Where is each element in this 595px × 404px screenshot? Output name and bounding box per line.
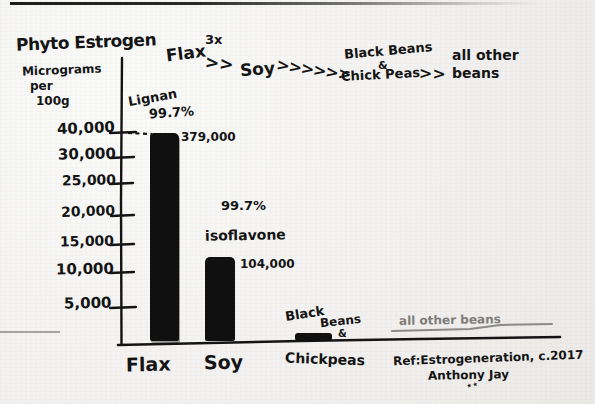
y-axis-unit-line-2: per	[30, 80, 53, 93]
ranking-separator-1: >>	[204, 54, 234, 75]
y-tick-label-15000: 15,000	[60, 234, 114, 250]
y-tick-label-20000: 20,000	[61, 203, 116, 220]
y-tick-label-30000: 30,000	[58, 146, 116, 163]
bar-black-beans-chickpeas	[295, 333, 332, 341]
ranking-item-all-other-line2: beans	[452, 66, 499, 81]
y-tick-label-25000: 25,000	[62, 173, 116, 189]
soy-note-line1: 99.7%	[221, 199, 266, 213]
y-axis-unit-line-3: 100g	[36, 95, 70, 108]
ranking-separator-3: >>	[419, 66, 446, 84]
blackbeans-note-amp: &	[338, 329, 347, 340]
chart-page: Phyto Estrogen Micrograms per 100g Flax …	[0, 0, 595, 404]
soy-value-label: 104,000	[240, 258, 295, 271]
x-label-flax: Flax	[126, 355, 171, 376]
ranking-item-all-other-line1: all other	[452, 48, 519, 63]
bar-soy	[205, 257, 235, 341]
all-other-beans-label: all other beans	[399, 313, 501, 327]
soy-note-line2: isoflavone	[205, 227, 286, 243]
y-axis-line	[121, 58, 122, 344]
y-tick-label-5000: 5,000	[64, 296, 112, 313]
x-label-soy: Soy	[204, 353, 243, 374]
flax-note-line2: 99.7%	[149, 104, 195, 121]
y-axis-unit-line-1: Micrograms	[22, 62, 102, 78]
y-tick-label-40000: 40,000	[57, 120, 115, 138]
flax-value-label: 379,000	[181, 131, 236, 144]
y-tick-label-10000: 10,000	[56, 261, 114, 278]
chickpeas-note-line3: Chickpeas	[285, 351, 365, 368]
bar-flax	[150, 133, 179, 341]
ranking-multiplier: 3x	[205, 33, 222, 47]
ranking-item-soy: Soy	[239, 60, 275, 80]
dashed-leader-line	[128, 133, 152, 134]
